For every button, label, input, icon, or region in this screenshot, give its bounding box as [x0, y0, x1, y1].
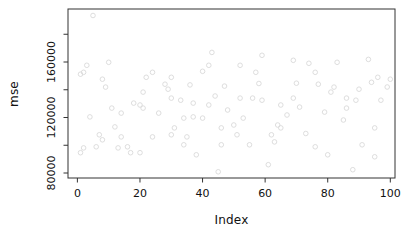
data-point	[294, 81, 299, 86]
data-point	[141, 106, 146, 111]
data-point	[97, 133, 102, 138]
data-point	[100, 77, 105, 82]
data-point	[182, 116, 187, 121]
data-point	[313, 70, 318, 75]
data-point	[354, 98, 359, 103]
data-point	[385, 85, 390, 90]
data-point	[210, 50, 215, 55]
data-point	[376, 75, 381, 80]
data-point	[119, 111, 124, 116]
data-point	[238, 63, 243, 68]
data-point	[191, 115, 196, 120]
x-axis-title: Index	[68, 213, 395, 227]
data-point	[191, 101, 196, 106]
x-tick-label: 60	[258, 187, 272, 200]
data-point	[329, 90, 334, 95]
data-point	[285, 113, 290, 118]
data-point	[125, 145, 130, 150]
y-tick-label: 120000	[45, 97, 58, 139]
data-point	[269, 133, 274, 138]
data-point	[188, 83, 193, 88]
data-point	[119, 135, 124, 140]
data-point	[150, 70, 155, 75]
data-point	[257, 81, 262, 86]
data-point	[169, 96, 174, 101]
data-point	[207, 103, 212, 108]
data-point	[156, 111, 161, 116]
data-point	[182, 143, 187, 148]
data-point	[335, 60, 340, 65]
data-point	[279, 126, 284, 131]
x-tick-label: 40	[196, 187, 210, 200]
data-point	[185, 135, 190, 140]
data-point	[369, 80, 374, 85]
x-tick-label: 20	[133, 187, 147, 200]
data-point	[200, 116, 205, 121]
data-point	[316, 82, 321, 87]
plot-border	[68, 9, 395, 178]
data-point	[266, 162, 271, 167]
data-point	[100, 138, 105, 143]
y-axis-title: mse	[7, 81, 21, 107]
data-point	[94, 145, 99, 150]
data-point	[138, 150, 143, 155]
data-point	[322, 110, 327, 115]
data-point	[169, 75, 174, 80]
data-point	[372, 126, 377, 131]
data-point	[388, 77, 393, 82]
data-point	[372, 155, 377, 160]
data-point	[103, 85, 108, 90]
data-point	[106, 60, 111, 65]
data-point	[128, 150, 133, 155]
data-point	[78, 150, 83, 155]
data-point	[141, 90, 146, 95]
data-point	[341, 118, 346, 123]
data-point	[332, 85, 337, 90]
data-point	[91, 13, 96, 18]
data-point	[219, 126, 224, 131]
x-tick-label: 0	[74, 187, 81, 200]
data-point	[81, 146, 86, 151]
data-point	[172, 126, 177, 131]
r-scatter-plot-figure: 02040608010080000120000160000 Index mse	[0, 0, 414, 239]
data-point	[213, 94, 218, 99]
data-point	[272, 140, 277, 145]
data-point	[291, 96, 296, 101]
data-point	[366, 57, 371, 62]
data-point	[116, 146, 121, 151]
data-point	[344, 96, 349, 101]
data-point	[113, 125, 118, 130]
data-point	[351, 167, 356, 172]
data-point	[250, 96, 255, 101]
data-point	[254, 70, 259, 75]
data-point	[313, 145, 318, 150]
data-point	[194, 153, 199, 158]
data-point	[225, 108, 230, 113]
data-point	[379, 98, 384, 103]
data-point	[241, 116, 246, 121]
data-point	[150, 135, 155, 140]
data-point	[200, 69, 205, 74]
data-point	[131, 101, 136, 106]
data-point	[291, 58, 296, 63]
data-point	[169, 133, 174, 138]
data-point	[110, 106, 115, 111]
data-point	[304, 131, 309, 136]
data-point	[279, 103, 284, 108]
data-point	[222, 84, 227, 89]
data-point	[235, 133, 240, 138]
y-tick-label: 160000	[45, 41, 58, 83]
data-point	[238, 96, 243, 101]
data-point	[307, 61, 312, 66]
data-point	[219, 143, 224, 148]
data-point	[163, 82, 168, 87]
data-point	[260, 53, 265, 58]
y-tick-label: 80000	[45, 156, 58, 191]
data-point	[216, 170, 221, 175]
data-point	[88, 115, 93, 120]
data-point	[260, 98, 265, 103]
data-point	[325, 153, 330, 158]
data-point	[85, 63, 90, 68]
data-point	[232, 123, 237, 128]
x-tick-label: 80	[321, 187, 335, 200]
